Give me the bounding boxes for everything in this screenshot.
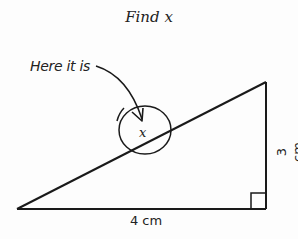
- here-it-is-annotation: Here it is: [30, 58, 90, 74]
- right-triangle: [17, 82, 266, 209]
- triangle-diagram: [0, 0, 298, 239]
- triangle-hypotenuse-line: [17, 82, 266, 209]
- height-length-label: 3 cm: [274, 136, 290, 168]
- variable-x-label: x: [139, 125, 146, 140]
- diagram-canvas: Find x Here it is x 4 cm 3 cm: [0, 0, 298, 239]
- base-length-label: 4 cm: [0, 213, 292, 228]
- right-angle-icon: [251, 193, 266, 209]
